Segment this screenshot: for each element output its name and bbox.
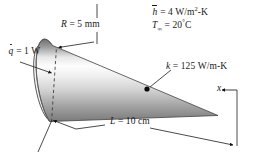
length-label: L = 10 cm xyxy=(110,117,150,127)
k-unit: W/m-K xyxy=(198,61,228,71)
x-axis-label: x xyxy=(217,84,221,94)
l-symbol: L xyxy=(110,116,115,126)
tinf-subscript: ∞ xyxy=(157,25,162,32)
r-symbol: R xyxy=(61,19,67,29)
r-unit: mm xyxy=(85,19,100,29)
cone-lateral-surface xyxy=(36,39,218,121)
q-unit: W xyxy=(31,46,40,56)
conductivity-leader xyxy=(150,70,171,87)
k-symbol: k xyxy=(166,61,170,71)
h-value: 4 xyxy=(168,7,173,17)
tinf-unit: C xyxy=(185,20,191,30)
l-unit: cm xyxy=(138,116,150,126)
figure-canvas xyxy=(0,0,253,157)
r-equals: = xyxy=(69,19,74,29)
r-value: 5 xyxy=(77,19,82,29)
q-equals: = xyxy=(16,46,21,56)
x-axis-indicator xyxy=(222,90,237,146)
q-dot-symbol: q xyxy=(8,46,14,56)
x-symbol: x xyxy=(217,83,221,93)
k-equals: = xyxy=(173,61,178,71)
ambient-temperature-label: T∞ = 20°C xyxy=(152,19,191,33)
convection-coefficient-label: h = 4 W/m2-K xyxy=(152,6,208,18)
thermal-conductivity-label: k = 125 W/m-K xyxy=(166,62,227,72)
q-value: 1 xyxy=(24,46,29,56)
h-equals: = xyxy=(160,7,165,17)
length-dim-line-left xyxy=(76,125,105,129)
h-unit-tail: -K xyxy=(198,7,208,17)
length-extension-left xyxy=(38,120,52,152)
k-value: 125 xyxy=(181,61,196,71)
h-bar-symbol: h xyxy=(152,7,158,17)
tinf-equals: = xyxy=(165,20,170,30)
h-unit: W/m xyxy=(175,7,194,17)
tinf-value: 20 xyxy=(172,20,182,30)
length-arrow-right xyxy=(150,128,233,145)
conical-fin-figure: h = 4 W/m2-K T∞ = 20°C k = 125 W/m-K R =… xyxy=(0,0,253,157)
l-value: 10 xyxy=(126,116,136,126)
base-radius-label: R = 5 mm xyxy=(61,20,100,30)
conductivity-leader-line xyxy=(150,70,171,87)
heat-rate-label: q = 1 W xyxy=(8,47,40,57)
length-arrow-left xyxy=(54,121,77,130)
radius-arrow xyxy=(59,42,95,48)
cone-body xyxy=(29,39,218,123)
interior-point-marker xyxy=(144,86,149,91)
l-equals: = xyxy=(118,116,123,126)
